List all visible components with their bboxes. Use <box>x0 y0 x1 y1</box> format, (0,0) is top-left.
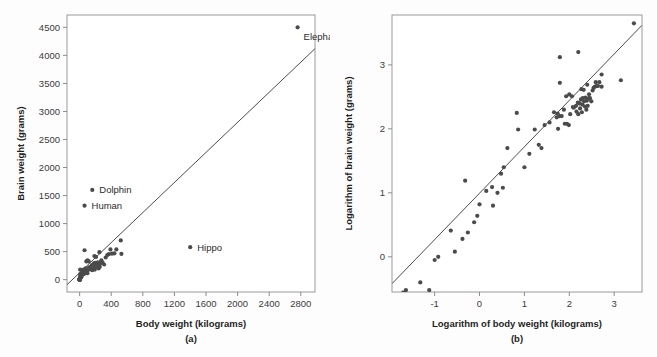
plot-frame <box>67 15 315 292</box>
scatter-plot-a: 0400800120016002000240028000500100015002… <box>0 0 330 357</box>
data-point <box>574 110 578 114</box>
data-point <box>587 96 591 100</box>
point-label-dolphin: Dolphin <box>99 184 131 195</box>
data-point <box>94 255 98 259</box>
data-point <box>427 288 431 292</box>
point-label-elephant: Elephant <box>304 31 330 42</box>
figure-container: 0400800120016002000240028000500100015002… <box>0 0 657 357</box>
data-point <box>516 127 520 131</box>
data-point <box>108 247 112 251</box>
plot-frame <box>392 15 642 292</box>
data-point <box>119 252 123 256</box>
x-axis-title: Body weight (kilograms) <box>136 318 246 329</box>
data-point <box>491 204 495 208</box>
data-point <box>580 110 584 114</box>
data-point <box>527 152 531 156</box>
data-point <box>114 247 118 251</box>
x-tick-label: 2800 <box>290 298 311 309</box>
panel-b-log-scale: -101230123Logarithm of body weight (kilo… <box>330 0 657 357</box>
point-label-human: Human <box>92 200 123 211</box>
y-tick-label: 2000 <box>39 162 60 173</box>
y-tick-label: 1500 <box>39 190 60 201</box>
y-tick-label: 0 <box>380 251 385 262</box>
data-point <box>537 143 541 147</box>
x-tick-label: 2 <box>567 298 572 309</box>
data-point <box>502 165 506 169</box>
y-tick-label: 3000 <box>39 106 60 117</box>
data-point <box>583 104 587 108</box>
data-point <box>576 50 580 54</box>
data-point <box>82 248 86 252</box>
y-tick-label: 4500 <box>39 22 60 33</box>
data-point <box>499 172 503 176</box>
data-point <box>90 188 94 192</box>
data-point <box>565 122 569 126</box>
data-point <box>556 127 560 131</box>
y-tick-label: 4000 <box>39 50 60 61</box>
data-point <box>515 111 519 115</box>
data-point <box>578 106 582 110</box>
data-point <box>572 106 576 110</box>
data-point <box>401 291 405 295</box>
data-point <box>501 186 505 190</box>
x-tick-label: 2000 <box>227 298 248 309</box>
x-tick-label: 800 <box>135 298 151 309</box>
data-point <box>85 258 89 262</box>
point-label-hippo: Hippo <box>197 242 222 253</box>
data-point <box>97 250 101 254</box>
y-tick-label: 1000 <box>39 218 60 229</box>
data-point <box>539 146 543 150</box>
y-tick-label: 0 <box>55 274 60 285</box>
data-point <box>543 123 547 127</box>
data-point <box>600 85 604 89</box>
y-tick-label: 500 <box>44 246 60 257</box>
data-point <box>558 55 562 59</box>
data-point <box>394 309 398 313</box>
y-axis-title: Logarithm of brain weight (grams) <box>343 76 354 230</box>
data-point <box>490 185 494 189</box>
y-axis-title: Brain weight (grams) <box>15 106 26 201</box>
data-point <box>560 114 564 118</box>
data-point <box>495 191 499 195</box>
data-point <box>472 220 476 224</box>
data-point <box>477 202 481 206</box>
panel-tag: (b) <box>511 333 523 344</box>
x-tick-label: 1600 <box>195 298 216 309</box>
data-point <box>568 112 572 116</box>
data-point <box>99 261 103 265</box>
y-tick-label: 3 <box>380 59 385 70</box>
data-point <box>484 189 488 193</box>
data-point <box>475 214 479 218</box>
x-axis-title: Logarithm of body weight (kilograms) <box>432 318 602 329</box>
data-point <box>466 230 470 234</box>
data-point <box>547 120 551 124</box>
data-point <box>463 179 467 183</box>
data-point <box>619 78 623 82</box>
data-point <box>296 25 300 29</box>
y-tick-label: 2 <box>380 123 385 134</box>
x-tick-label: -1 <box>430 298 438 309</box>
panel-a-raw-scale: 0400800120016002000240028000500100015002… <box>0 0 330 357</box>
data-point <box>594 80 598 84</box>
data-point <box>449 228 453 232</box>
data-point <box>558 81 562 85</box>
data-point <box>533 127 537 131</box>
data-point <box>582 88 586 92</box>
x-tick-label: 1200 <box>164 298 185 309</box>
data-point <box>78 278 82 282</box>
data-point <box>82 204 86 208</box>
data-point <box>597 80 601 84</box>
data-point <box>600 72 604 76</box>
data-point <box>188 245 192 249</box>
x-tick-label: 0 <box>477 298 482 309</box>
data-point <box>460 237 464 241</box>
x-tick-label: 2400 <box>259 298 280 309</box>
x-tick-label: 0 <box>77 298 82 309</box>
data-point <box>433 258 437 262</box>
x-tick-label: 3 <box>612 298 617 309</box>
data-point <box>436 255 440 259</box>
data-point <box>587 92 591 96</box>
data-point <box>505 146 509 150</box>
data-point <box>632 21 636 25</box>
x-tick-label: 400 <box>103 298 119 309</box>
